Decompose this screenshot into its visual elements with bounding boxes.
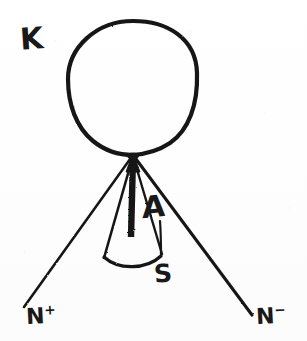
label-a: A xyxy=(142,191,166,224)
vector-a-group xyxy=(126,153,140,237)
ray-to-n-plus xyxy=(24,155,133,307)
label-n-plus-superscript: + xyxy=(44,301,56,318)
label-k: K xyxy=(19,23,44,55)
s-leader-line xyxy=(160,221,161,256)
label-n-plus: N+ xyxy=(25,303,56,328)
label-n-plus-base: N xyxy=(25,303,45,329)
diagram-drawing xyxy=(0,0,307,341)
label-n-minus-superscript: − xyxy=(274,301,286,318)
apex-junction xyxy=(127,153,139,160)
label-n-minus-base: N xyxy=(255,303,275,329)
ray-to-n-minus xyxy=(133,155,252,315)
figure-canvas: K A S N+ N− xyxy=(0,0,307,341)
circle-body xyxy=(68,21,197,155)
label-n-minus: N− xyxy=(255,303,286,328)
label-s: S xyxy=(153,260,173,286)
